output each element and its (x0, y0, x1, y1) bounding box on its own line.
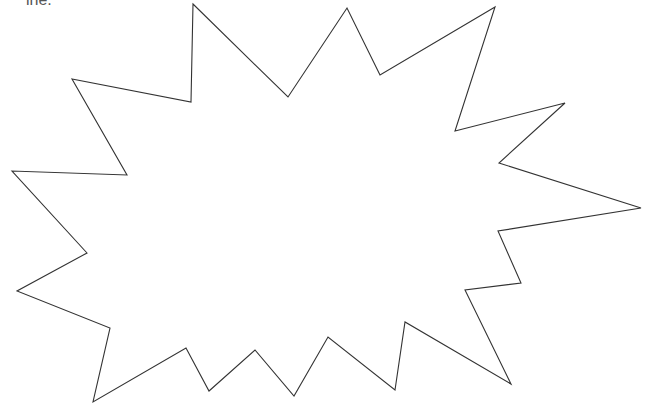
starburst-shape (12, 4, 641, 402)
starburst-canvas (0, 0, 653, 409)
